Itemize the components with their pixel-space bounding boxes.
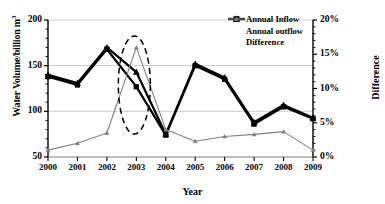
y-tick-label-left: 200 [8,14,42,24]
y-axis-label-right: Difference [370,33,381,123]
y-tick-label-right: 5% [320,117,334,127]
legend-item: Annual outflow [228,26,303,38]
legend-label: Annual Inflow [246,14,299,26]
series-layer [45,44,316,151]
legend-label: Annual outflow [246,26,303,38]
x-tick-label: 2009 [296,162,330,172]
legend-label: Difference [246,37,284,49]
legend-item: Difference [228,37,303,49]
y-tick-label-left: 50 [8,151,42,161]
chart-figure: Water Volume/billion m3 Difference Year … [0,0,385,204]
x-axis-label: Year [0,186,385,197]
y-tick-label-right: 20% [320,14,339,24]
legend-key-square-icon [228,26,245,36]
y-tick-label-left: 150 [8,60,42,70]
series-annual-inflow [45,44,316,136]
series-annual-outflow [46,47,316,138]
chart-canvas [0,0,385,204]
chart-legend: Annual InflowAnnual outflowDifference [228,14,303,49]
y-tick-label-right: 15% [320,48,339,58]
legend-key-triangle-icon [228,38,245,48]
y-tick-label-left: 100 [8,105,42,115]
y-tick-label-right: 10% [320,83,339,93]
y-tick-label-right: 0% [320,151,334,161]
